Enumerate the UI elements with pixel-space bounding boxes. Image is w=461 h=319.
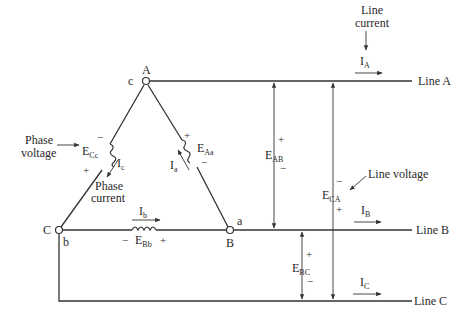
- eaa-minus: −: [201, 156, 207, 168]
- node-C-label: C: [43, 223, 51, 237]
- node-B-label: B: [226, 236, 234, 250]
- eaa-plus: +: [184, 129, 190, 141]
- eab-plus: +: [278, 133, 284, 145]
- line-voltage-annotation: Line voltage: [368, 167, 428, 181]
- line-current-annotation-2: current: [355, 16, 390, 30]
- ecc-label: ECc: [82, 144, 99, 160]
- coil-bb-icon: [132, 227, 156, 230]
- ebb-label: EBb: [135, 233, 152, 249]
- ebb-minus: −: [122, 234, 128, 246]
- node-A-label: A: [142, 63, 151, 77]
- line-current-annotation-1: Line: [361, 3, 383, 17]
- ic-line-label: IC: [360, 275, 369, 291]
- eca-minus: −: [336, 175, 342, 187]
- terminal-c-icon: [56, 227, 63, 234]
- coil-cc-icon: [110, 144, 116, 167]
- line-b-label: Line B: [416, 223, 449, 237]
- wire-a-c-upper: [110, 85, 144, 144]
- wire-a-b-lower: [197, 167, 228, 227]
- phase-voltage-annotation-1: Phase: [25, 133, 53, 147]
- ebb-plus: +: [160, 234, 166, 246]
- ib-line-label: IB: [361, 203, 370, 219]
- eab-minus: −: [280, 162, 286, 174]
- eca-label: ECA: [322, 188, 341, 204]
- eca-plus: +: [336, 203, 342, 215]
- delta-connection-diagram: Line A Line B Line C A c C b B a − ECc +…: [0, 0, 461, 319]
- ic-label: Ic: [117, 156, 125, 172]
- node-b-label: b: [63, 235, 69, 249]
- ia-line-label: IA: [360, 54, 370, 70]
- phase-voltage-annotation-2: voltage: [21, 146, 56, 160]
- ebc-minus: −: [307, 275, 313, 287]
- ecc-plus: +: [83, 164, 89, 176]
- ia-label: Ia: [170, 158, 178, 174]
- terminal-a-icon: [143, 78, 150, 85]
- wire-a-b-upper: [148, 85, 182, 140]
- eaa-label: EAa: [197, 141, 214, 157]
- ebc-plus: +: [306, 248, 312, 260]
- node-c-label: c: [128, 74, 133, 88]
- phase-current-annotation-2: current: [91, 191, 126, 205]
- node-a-label: a: [237, 214, 243, 228]
- line-voltage-pointer-arrow-icon: [350, 176, 366, 190]
- ib-label: Ib: [139, 204, 147, 220]
- line-c-label: Line C: [414, 294, 447, 308]
- line-c-wire: [59, 234, 412, 301]
- line-a-label: Line A: [418, 74, 451, 88]
- terminal-b-icon: [227, 227, 234, 234]
- ecc-minus: −: [97, 131, 103, 143]
